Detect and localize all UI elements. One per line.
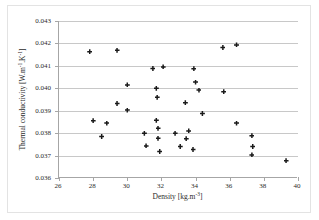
data-point-marker bbox=[157, 149, 162, 154]
y-axis-tick bbox=[55, 111, 59, 112]
y-axis-tick-label: 0.039 bbox=[0, 107, 51, 115]
x-axis-tick-label: 36 bbox=[217, 182, 241, 190]
data-point-marker bbox=[193, 80, 198, 85]
data-point-marker bbox=[173, 131, 178, 136]
data-point-marker bbox=[220, 45, 225, 50]
data-point-marker bbox=[154, 86, 159, 91]
gridline-horizontal bbox=[59, 66, 298, 67]
data-point-marker bbox=[99, 134, 104, 139]
y-axis-tick bbox=[55, 43, 59, 44]
data-point-marker bbox=[191, 66, 196, 71]
gridline-horizontal bbox=[59, 111, 298, 112]
data-point-marker bbox=[191, 147, 196, 152]
y-axis-tick-label: 0.040 bbox=[0, 84, 51, 92]
data-point-marker bbox=[115, 48, 120, 53]
x-axis-tick bbox=[230, 177, 231, 181]
data-point-marker bbox=[144, 143, 149, 148]
data-point-marker bbox=[184, 136, 189, 141]
data-point-marker bbox=[156, 136, 161, 141]
x-axis-tick bbox=[196, 177, 197, 181]
data-point-marker bbox=[87, 49, 92, 54]
gridline-horizontal bbox=[59, 88, 298, 89]
data-point-marker bbox=[183, 100, 188, 105]
data-point-marker bbox=[125, 82, 130, 87]
y-axis-tick-label: 0.037 bbox=[0, 152, 51, 160]
x-axis-tick bbox=[161, 177, 162, 181]
data-point-marker bbox=[154, 118, 159, 123]
y-axis-tick bbox=[55, 133, 59, 134]
data-point-marker bbox=[104, 121, 109, 126]
y-axis-tick bbox=[55, 21, 59, 22]
data-point-marker bbox=[284, 158, 289, 163]
data-point-marker bbox=[115, 101, 120, 106]
data-point-marker bbox=[91, 118, 96, 123]
data-point-marker bbox=[178, 144, 183, 149]
x-axis-tick-label: 40 bbox=[285, 182, 309, 190]
x-axis-tick bbox=[264, 177, 265, 181]
data-point-marker bbox=[142, 131, 147, 136]
gridline-horizontal bbox=[59, 43, 298, 44]
plot-area bbox=[58, 21, 297, 178]
x-axis-tick-label: 26 bbox=[46, 182, 70, 190]
gridline-horizontal bbox=[59, 156, 298, 157]
x-axis-tick-label: 28 bbox=[80, 182, 104, 190]
y-axis-tick-label: 0.043 bbox=[0, 17, 51, 25]
data-point-marker bbox=[155, 95, 160, 100]
y-axis-tick bbox=[55, 88, 59, 89]
y-axis-tick bbox=[55, 66, 59, 67]
data-point-marker bbox=[156, 126, 161, 131]
x-axis-tick bbox=[298, 177, 299, 181]
data-point-marker bbox=[234, 121, 239, 126]
scatter-plot-figure: Thermal conductivity [W.m-1.K-1] Density… bbox=[0, 0, 319, 220]
x-axis-tick-label: 30 bbox=[114, 182, 138, 190]
gridline-horizontal bbox=[59, 21, 298, 22]
y-axis-tick-label: 0.041 bbox=[0, 62, 51, 70]
data-point-marker bbox=[221, 89, 226, 94]
x-axis-tick-label: 38 bbox=[251, 182, 275, 190]
x-axis-tick bbox=[59, 177, 60, 181]
y-axis-tick-label: 0.036 bbox=[0, 174, 51, 182]
x-axis-tick bbox=[127, 177, 128, 181]
data-point-marker bbox=[125, 108, 130, 113]
x-axis-tick bbox=[93, 177, 94, 181]
x-axis-tick-label: 34 bbox=[183, 182, 207, 190]
data-point-marker bbox=[249, 152, 254, 157]
gridline-horizontal bbox=[59, 133, 298, 134]
y-axis-tick-label: 0.038 bbox=[0, 129, 51, 137]
data-point-marker bbox=[250, 144, 255, 149]
x-axis-tick-label: 32 bbox=[148, 182, 172, 190]
x-axis-title: Density [kg.m-3] bbox=[58, 192, 297, 202]
y-axis-tick-label: 0.042 bbox=[0, 39, 51, 47]
y-axis-tick bbox=[55, 156, 59, 157]
